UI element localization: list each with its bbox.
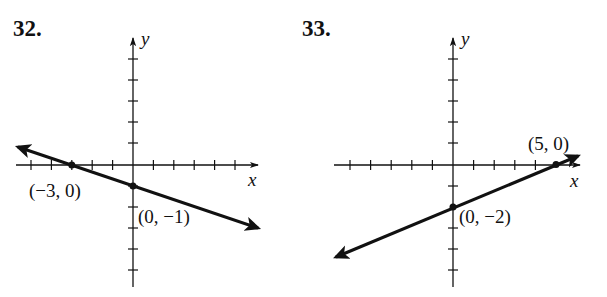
x-axis-label: x — [569, 170, 579, 191]
point-neg3-0 — [68, 162, 75, 169]
y-axis-label: y — [459, 28, 470, 49]
point-5-0 — [553, 161, 560, 168]
point-label-0-neg1: (0, −1) — [138, 206, 190, 228]
point-label-0-neg2: (0, −2) — [459, 206, 511, 228]
point-0-neg1 — [130, 183, 137, 190]
graph-32: y x (−3, 0) (0, −1) — [16, 28, 258, 287]
x-axis-label: x — [247, 169, 257, 190]
graph-33: y x (5, 0) (0, −2) — [334, 28, 580, 287]
point-0-neg2 — [450, 204, 457, 211]
y-axis-label: y — [139, 28, 150, 49]
graphed-line — [336, 156, 578, 257]
point-label-neg3-0: (−3, 0) — [29, 180, 81, 202]
point-label-5-0: (5, 0) — [528, 133, 569, 155]
graphs-canvas: y x (−3, 0) (0, −1) — [0, 0, 607, 297]
